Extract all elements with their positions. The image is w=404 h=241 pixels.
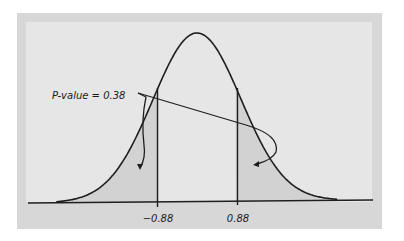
tick-label-left: −0.88 <box>143 213 174 224</box>
tick-label-right: 0.88 <box>227 213 249 224</box>
normal-distribution-chart: P-value = 0.38 −0.88 0.88 <box>0 0 404 241</box>
p-value-annotation: P-value = 0.38 <box>52 90 125 101</box>
inner-panel <box>26 22 372 202</box>
